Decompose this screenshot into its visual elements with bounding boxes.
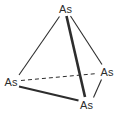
bond-lines xyxy=(19,16,102,101)
molecule-diagram: As As As As xyxy=(0,0,123,120)
atom-label-bottom: As xyxy=(80,99,93,111)
atom-label-right: As xyxy=(101,66,114,78)
molecule-svg: As As As As xyxy=(0,0,123,120)
bond-top-bottom xyxy=(67,16,86,97)
bond-top-left xyxy=(19,17,60,76)
bond-right-bottom xyxy=(94,80,102,98)
atom-label-left: As xyxy=(5,76,18,88)
bond-left-bottom xyxy=(19,87,79,101)
atom-label-top: As xyxy=(59,3,72,15)
bond-left-right xyxy=(21,74,98,81)
